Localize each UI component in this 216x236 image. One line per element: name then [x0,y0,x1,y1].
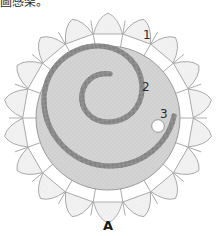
perforation-hole [152,120,165,133]
callout-label-1: 1 [143,28,151,42]
callout-label-2: 2 [142,80,150,94]
callout-label-3: 3 [160,107,168,121]
panel-letter: A [0,218,216,233]
artifact-illustration [0,0,216,236]
figure-panel: 圖感架。 [0,0,216,236]
